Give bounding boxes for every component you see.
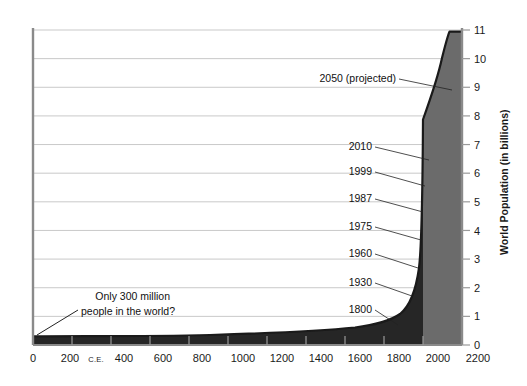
y-tick-label: 10 <box>474 53 486 65</box>
x-tick-label: 0 <box>30 352 36 364</box>
y-tick-label: 4 <box>474 225 480 237</box>
x-tick-label: 1200 <box>270 352 294 364</box>
y-axis-title: World Population (in billions) <box>498 109 510 255</box>
x-tick-label: 800 <box>193 352 211 364</box>
y-tick-label: 0 <box>474 339 480 351</box>
y-tick-label: 5 <box>474 196 480 208</box>
y-tick-label: 2 <box>474 282 480 294</box>
annotation-line-1: Only 300 million <box>95 290 170 302</box>
milestone-label-1999: 1999 <box>349 165 373 177</box>
milestone-label-2050: 2050 (projected) <box>320 72 396 84</box>
x-tick-label: 2200 <box>466 352 490 364</box>
y-tick-marks <box>462 30 470 345</box>
y-tick-label: 3 <box>474 253 480 265</box>
x-tick-label: 2000 <box>426 352 450 364</box>
y-tick-label: 7 <box>474 139 480 151</box>
annotation-line-2: people in the world? <box>81 305 175 317</box>
x-tick-label: 1000 <box>231 352 255 364</box>
milestone-label-2010: 2010 <box>349 140 373 152</box>
x-axis-tick-labels: 0 200 C.E. 400 600 800 1000 1200 1400 16… <box>30 352 490 364</box>
y-axis-tick-labels: 0 1 2 3 4 5 6 7 8 9 10 11 <box>474 24 486 351</box>
x-tick-label: 400 <box>115 352 133 364</box>
y-tick-label: 11 <box>474 24 485 36</box>
x-tick-label: 1400 <box>309 352 333 364</box>
x-tick-label: 600 <box>154 352 172 364</box>
x-tick-label: 1600 <box>348 352 372 364</box>
y-tick-label: 1 <box>474 310 480 322</box>
y-tick-label: 6 <box>474 167 480 179</box>
milestone-label-1960: 1960 <box>349 247 373 259</box>
x-tick-label: 200 <box>61 352 79 364</box>
x-axis-era-label: C.E. <box>88 355 103 364</box>
y-tick-label: 8 <box>474 110 480 122</box>
chart-canvas: 0 200 C.E. 400 600 800 1000 1200 1400 16… <box>0 0 527 386</box>
milestone-label-1930: 1930 <box>349 276 373 288</box>
world-population-chart: 0 200 C.E. 400 600 800 1000 1200 1400 16… <box>0 0 527 386</box>
x-tick-label: 1800 <box>387 352 411 364</box>
milestone-label-1987: 1987 <box>349 192 373 204</box>
y-tick-label: 9 <box>474 81 480 93</box>
milestone-label-1800: 1800 <box>349 303 373 315</box>
milestone-label-1975: 1975 <box>349 220 373 232</box>
